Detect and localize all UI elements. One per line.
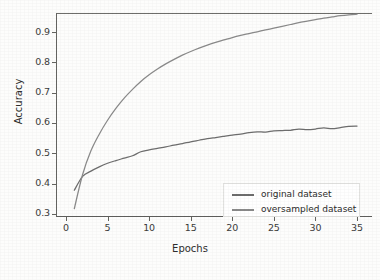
y-tick-label: 0.9 [24,26,50,37]
x-tick-label: 35 [342,222,372,233]
x-tick-mark [66,217,67,221]
legend-label: oversampled dataset [261,204,356,214]
y-tick-label: 0.3 [24,207,50,218]
y-tick-label: 0.6 [24,116,50,127]
legend-entry: original dataset [224,187,361,203]
x-tick-mark [191,217,192,221]
chart-figure: 0.30.40.50.60.70.80.9 05101520253035 Epo… [0,0,380,280]
y-axis-title: Accuracy [13,62,24,142]
series-line-original-dataset [74,126,357,190]
legend-color-swatch [232,209,254,211]
legend-color-swatch [232,194,254,196]
y-tick-label: 0.7 [24,86,50,97]
y-tick-mark [52,153,56,154]
y-tick-mark [52,32,56,33]
legend-entry: oversampled dataset [224,202,361,218]
y-tick-mark [52,93,56,94]
x-tick-label: 25 [259,222,289,233]
x-tick-label: 10 [134,222,164,233]
x-tick-label: 30 [300,222,330,233]
y-tick-mark [52,214,56,215]
y-tick-label: 0.8 [24,56,50,67]
x-tick-mark [108,217,109,221]
y-tick-mark [52,62,56,63]
x-axis-title: Epochs [0,243,380,254]
x-tick-label: 15 [176,222,206,233]
plot-curves [0,0,380,280]
legend-box: original datasetoversampled dataset [223,183,360,217]
x-tick-label: 5 [93,222,123,233]
x-tick-label: 20 [217,222,247,233]
series-line-oversampled-dataset [74,14,357,209]
y-tick-mark [52,123,56,124]
y-tick-mark [52,184,56,185]
legend-label: original dataset [261,189,332,199]
y-tick-label: 0.4 [24,177,50,188]
x-tick-mark [149,217,150,221]
y-tick-label: 0.5 [24,147,50,158]
x-tick-label: 0 [51,222,81,233]
